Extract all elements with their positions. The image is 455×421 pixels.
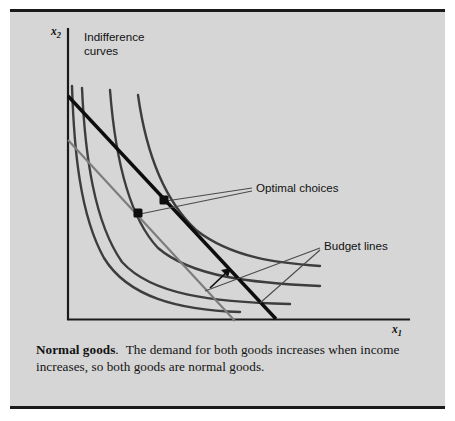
optimal-choice-dot-high-income	[160, 196, 169, 205]
x-axis-label: x1	[391, 323, 402, 338]
leader-line-optimal-low	[140, 191, 252, 214]
budget-lines-label: Budget lines	[324, 239, 388, 252]
indifference-curves-label-line1: Indifference	[84, 30, 144, 43]
figure-page: Indifference curves Optimal choices Budg…	[0, 0, 455, 421]
y-axis-label: x2	[50, 25, 61, 40]
caption-lead: Normal goods	[36, 342, 115, 357]
optimal-choices-label: Optimal choices	[256, 181, 339, 194]
caption-lead-period: .	[115, 342, 118, 357]
leader-line-budget-gray	[260, 250, 320, 303]
figure-caption: Normal goods.The demand for both goods i…	[36, 341, 428, 375]
optimal-choice-markers	[134, 196, 169, 218]
optimal-choice-dot-low-income	[134, 209, 143, 218]
indifference-curves-label-line2: curves	[84, 44, 118, 57]
leader-line-optimal-high	[166, 188, 252, 201]
